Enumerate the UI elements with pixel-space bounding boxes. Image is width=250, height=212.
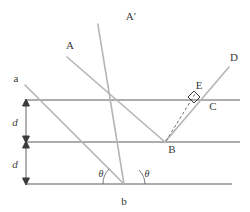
angle-arc-left xyxy=(103,169,109,184)
right-angle-marker-icon xyxy=(188,91,200,103)
label-point-b: b xyxy=(121,195,127,207)
label-incident-ray-A: A xyxy=(66,39,74,51)
label-angle-theta-right: θ xyxy=(145,168,150,179)
bragg-diffraction-figure: a A A′ D E C B b d d θ θ xyxy=(0,0,250,212)
diagram-canvas: a A A′ D E C B b d d θ θ xyxy=(0,0,250,212)
label-reflected-ray-A-prime: A′ xyxy=(126,10,136,22)
diagram-labels: a A A′ D E C B b d d θ θ xyxy=(12,10,238,207)
label-incident-ray-a: a xyxy=(14,72,19,84)
label-point-C: C xyxy=(209,100,216,112)
label-point-B: B xyxy=(168,143,175,155)
label-angle-theta-left: θ xyxy=(99,168,104,179)
lattice-planes xyxy=(26,100,240,184)
dashed-segment-BE xyxy=(166,94,195,141)
label-spacing-upper-d: d xyxy=(12,116,18,128)
label-spacing-lower-d: d xyxy=(12,158,18,170)
label-point-E: E xyxy=(196,79,203,91)
label-reflected-ray-D: D xyxy=(230,51,238,63)
incident-rays xyxy=(25,57,165,184)
